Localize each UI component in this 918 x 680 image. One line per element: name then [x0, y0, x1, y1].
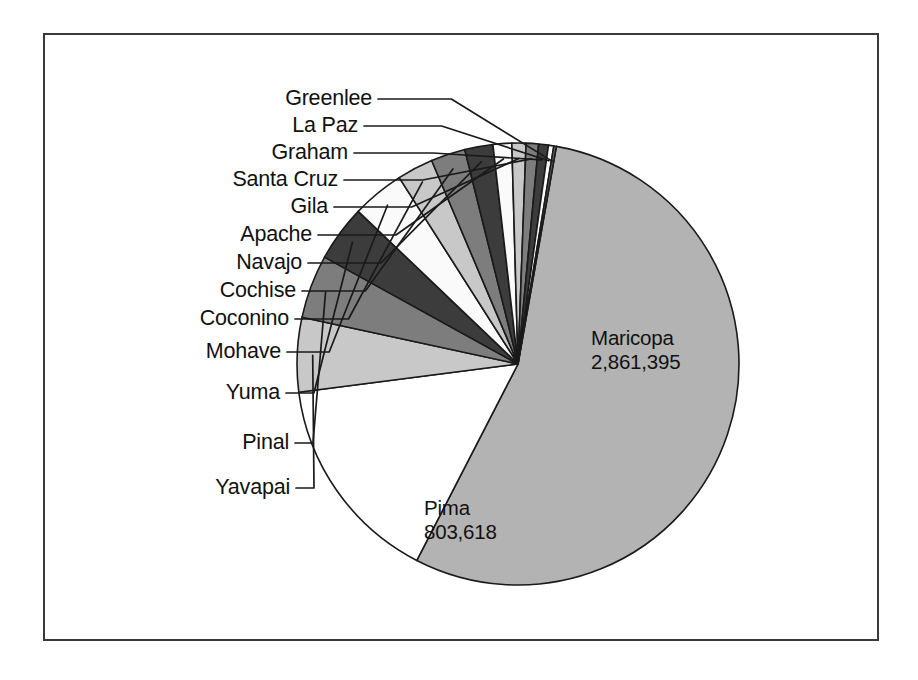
pie-chart-figure: GreenleeLa PazGrahamSanta CruzGilaApache…	[0, 0, 918, 680]
callout-label-navajo: Navajo	[0, 252, 302, 274]
slice-label-maricopa: Maricopa2,861,395	[591, 326, 680, 374]
callout-label-cochise: Cochise	[0, 280, 296, 302]
callout-label-santa-cruz: Santa Cruz	[0, 169, 338, 191]
callout-label-yuma: Yuma	[0, 382, 280, 404]
callout-label-coconino: Coconino	[0, 308, 289, 330]
callout-label-mohave: Mohave	[0, 341, 281, 363]
slice-label-value: 803,618	[424, 520, 497, 544]
callout-label-greenlee: Greenlee	[0, 88, 372, 110]
callout-label-yavapai: Yavapai	[0, 477, 290, 499]
callout-label-graham: Graham	[0, 142, 348, 164]
callout-label-apache: Apache	[0, 224, 312, 246]
callout-label-la-paz: La Paz	[0, 115, 358, 137]
callout-label-gila: Gila	[0, 196, 328, 218]
slice-label-name: Maricopa	[591, 326, 674, 349]
slice-label-value: 2,861,395	[591, 350, 680, 374]
slice-label-pima: Pima803,618	[424, 496, 497, 544]
callout-label-pinal: Pinal	[0, 432, 289, 454]
slice-label-name: Pima	[424, 496, 470, 519]
